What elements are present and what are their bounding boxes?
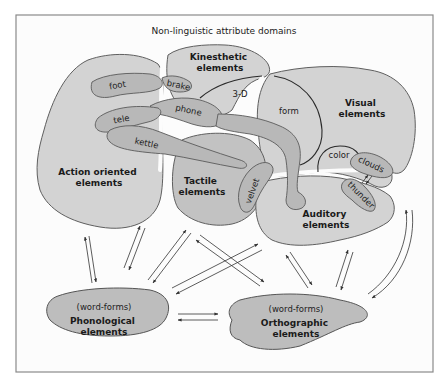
kinesthetic-label: Kinesthetic elements (190, 52, 251, 73)
form-label: form (279, 106, 299, 116)
color-label: color (329, 150, 350, 160)
non-linguistic-domains-diagram: Non-linguistic attribute domains 3-D for… (0, 0, 448, 387)
auditory-label: Auditory elements (303, 209, 350, 230)
diagram-title: Non-linguistic attribute domains (152, 26, 297, 36)
three-d-label: 3-D (232, 89, 247, 99)
visual-label: Visual elements (339, 98, 386, 119)
tactile-label: Tactile elements (179, 176, 226, 197)
orthographic-subtitle: (word-forms) (269, 304, 324, 314)
phonological-subtitle: (word-forms) (77, 302, 132, 312)
